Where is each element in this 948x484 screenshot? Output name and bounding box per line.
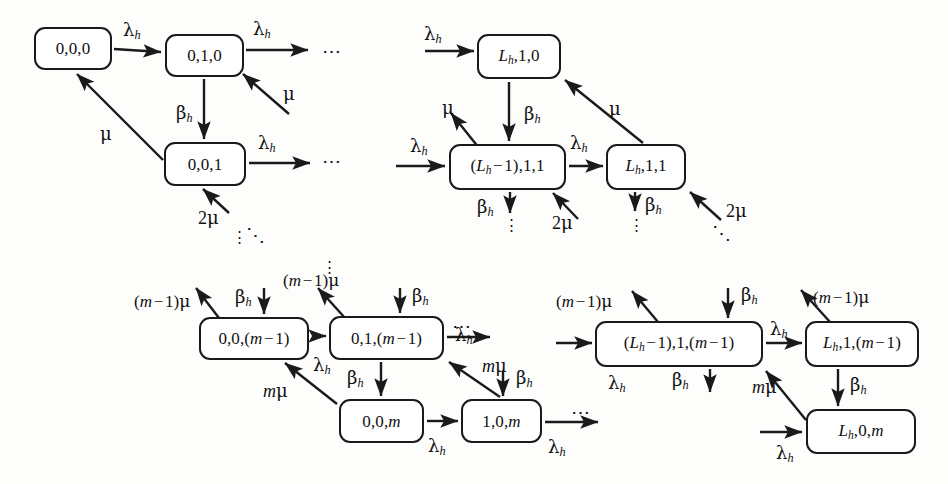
rate-label-m-minus-1-mu: (m − 1)μ <box>134 293 190 310</box>
state-label: (Lh − 1),1,(m − 1) <box>622 334 737 354</box>
rate-label-beta-h: βh <box>412 287 429 308</box>
rate-label-beta-h: βh <box>672 371 689 392</box>
arrow-2mu-into-Lh11 <box>690 192 721 220</box>
rate-label-beta-h: βh <box>235 288 252 309</box>
ellipsis-horizontal: ⋯ <box>452 317 473 336</box>
ellipsis-vertical: ⋮ <box>232 232 247 243</box>
rate-label-m-mu: mμ <box>752 378 777 396</box>
state-label: Lh,1,0 <box>496 47 541 67</box>
rate-label-2mu: 2μ <box>198 209 219 227</box>
rate-label-beta-h: βh <box>645 196 662 217</box>
state-label: 0,0,0 <box>54 40 93 57</box>
rate-label-lambda-h: λh <box>428 437 446 458</box>
ellipsis-horizontal: ⋯ <box>322 152 343 171</box>
rate-label-lambda-h: λh <box>608 374 626 395</box>
rate-label-lambda-h: λh <box>410 137 428 158</box>
state-node[interactable]: 0,0,1 <box>164 142 246 186</box>
state-node[interactable]: 0,1,(m − 1) <box>329 316 444 360</box>
rate-label-lambda-h: λh <box>123 21 141 42</box>
state-node[interactable]: Lh,1,0 <box>477 34 561 79</box>
ellipsis-horizontal: ⋯ <box>571 403 592 422</box>
state-label: (Lh − 1),1,1 <box>468 157 546 177</box>
rate-label-mu: μ <box>100 125 112 143</box>
ellipsis-vertical: ⋮ <box>322 262 337 273</box>
state-label: Lh,1,1 <box>623 157 668 177</box>
ellipsis-vertical: ⋮ <box>504 220 519 231</box>
state-node[interactable]: Lh,1,(m − 1) <box>805 321 919 367</box>
state-label: 0,0,1 <box>186 156 225 173</box>
rate-label-beta-h: βh <box>516 369 533 390</box>
rate-label-m-mu: mμ <box>482 357 507 375</box>
rate-label-2mu: 2μ <box>552 214 573 232</box>
rate-label-lambda-h: λh <box>258 134 276 155</box>
state-node[interactable]: 0,0,0 <box>34 27 112 70</box>
rate-label-lambda-h: λh <box>253 20 271 41</box>
rate-label-beta-h: βh <box>477 198 494 219</box>
state-label: 0,0,(m − 1) <box>216 330 291 347</box>
state-label: 0,1,(m − 1) <box>349 330 424 347</box>
rate-label-lambda-h: λh <box>776 444 794 465</box>
rate-label-beta-h: βh <box>741 286 758 307</box>
rate-label-mu: μ <box>609 100 621 118</box>
state-node[interactable]: (Lh − 1),1,(m − 1) <box>595 321 763 367</box>
state-node[interactable]: 0,0,m <box>339 399 424 443</box>
state-node[interactable]: Lh,1,1 <box>606 144 686 190</box>
ellipsis-horizontal: ⋯ <box>322 42 343 61</box>
state-label: 0,1,0 <box>185 47 224 64</box>
state-label: Lh,1,(m − 1) <box>821 334 903 354</box>
arrow-Lhm1-11-out-mu <box>451 113 479 148</box>
state-transition-diagram: 0,0,0 0,1,0 0,0,1 Lh,1,0 (Lh − 1),1,1 Lh… <box>0 0 948 484</box>
rate-label-lambda-h: λh <box>770 320 788 341</box>
rate-label-beta-h: βh <box>524 105 541 126</box>
state-node[interactable]: 0,1,0 <box>165 34 244 77</box>
arrow-001-to-000 <box>77 74 163 160</box>
rate-label-m-minus-1-mu: (m − 1)μ <box>556 293 612 310</box>
state-node[interactable]: 1,0,m <box>461 399 542 443</box>
state-label: 0,0,m <box>360 413 402 430</box>
arrow-000-to-010 <box>114 49 161 52</box>
state-label: 1,0,m <box>480 413 522 430</box>
rate-label-2mu: 2μ <box>726 202 747 220</box>
rate-label-mu: μ <box>442 99 454 117</box>
rate-label-mu: μ <box>283 85 295 103</box>
state-node[interactable]: (Lh − 1),1,1 <box>449 144 566 190</box>
arrow-01m1-out-m1mu <box>318 288 345 318</box>
rate-label-beta-h: βh <box>176 104 193 125</box>
ellipsis-vertical: ⋮ <box>629 220 644 231</box>
arrow-00m1-out-m1mu <box>196 288 219 318</box>
state-node[interactable]: Lh,0,m <box>806 409 916 454</box>
rate-label-beta-h: βh <box>347 369 364 390</box>
ellipsis-diagonal: ⋱ <box>246 226 265 245</box>
rate-label-lambda-h: λh <box>424 25 442 46</box>
rate-label-lambda-h: λh <box>548 438 566 459</box>
rate-label-m-mu: mμ <box>263 382 288 400</box>
rate-label-lambda-h: λh <box>570 134 588 155</box>
arrow-Lhm1-1m1-out-m1mu <box>632 291 658 322</box>
state-label: Lh,0,m <box>836 422 885 442</box>
state-node[interactable]: 0,0,(m − 1) <box>199 317 309 360</box>
rate-label-m-minus-1-mu: (m − 1)μ <box>813 289 869 306</box>
rate-label-beta-h: βh <box>850 376 867 397</box>
rate-label-lambda-h: λh <box>313 356 331 377</box>
ellipsis-diagonal: ⋱ <box>712 224 731 243</box>
